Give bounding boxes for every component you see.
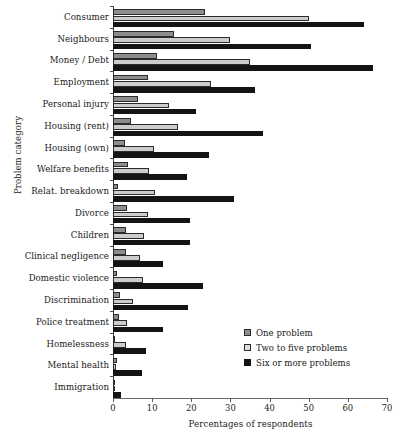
- y-axis-tick-label: Employment: [54, 77, 109, 87]
- y-axis-tick: [110, 137, 113, 138]
- y-axis-tick: [110, 28, 113, 29]
- bar: [113, 380, 115, 386]
- bar: [113, 152, 209, 158]
- bar: [113, 342, 126, 348]
- bar: [113, 196, 234, 202]
- bar: [113, 9, 205, 15]
- bar: [113, 59, 250, 65]
- bar: [113, 261, 163, 267]
- y-axis-tick-label: Consumer: [64, 12, 109, 22]
- y-axis-tick-label: Immigration: [54, 382, 109, 392]
- bar: [113, 140, 125, 146]
- y-axis-tick: [110, 333, 113, 334]
- bar: [113, 255, 140, 261]
- x-axis-tick-label: 0: [98, 403, 128, 413]
- bar: [113, 386, 115, 392]
- bar: [113, 283, 203, 289]
- y-axis-tick: [110, 246, 113, 247]
- y-axis-tick: [110, 93, 113, 94]
- bar: [113, 314, 119, 320]
- bar: [113, 190, 155, 196]
- bar: [113, 205, 127, 211]
- y-axis-tick-label: Mental health: [47, 360, 109, 370]
- bar: [113, 184, 118, 190]
- bar: [113, 118, 131, 124]
- y-axis-tick-label: Divorce: [75, 208, 109, 218]
- x-axis-tick-label: 70: [372, 403, 397, 413]
- x-axis-tick: [270, 398, 271, 402]
- bar: [113, 31, 174, 37]
- x-axis-tick-label: 60: [333, 403, 363, 413]
- y-axis-tick-label: Housing (rent): [44, 121, 109, 131]
- category-row: Children: [113, 224, 387, 246]
- y-axis-tick: [110, 71, 113, 72]
- y-axis-tick: [110, 180, 113, 181]
- category-row: Relat. breakdown: [113, 180, 387, 202]
- bar: [113, 358, 117, 364]
- x-axis-title: Percentages of respondents: [113, 419, 388, 429]
- category-row: Consumer: [113, 6, 387, 28]
- x-axis-tick-label: 20: [176, 403, 206, 413]
- x-axis-tick-label: 30: [215, 403, 245, 413]
- bar: [113, 22, 364, 28]
- bar: [113, 348, 146, 354]
- bar: [113, 327, 163, 333]
- x-axis-tick: [230, 398, 231, 402]
- legend-item: One problem: [244, 325, 350, 340]
- bar: [113, 233, 144, 239]
- bar: [113, 96, 138, 102]
- y-axis-tick: [110, 354, 113, 355]
- x-axis-tick-label: 10: [137, 403, 167, 413]
- legend-swatch-icon: [244, 359, 251, 366]
- y-axis-tick-label: Neighbours: [57, 34, 109, 44]
- bar: [113, 212, 148, 218]
- category-row: Housing (own): [113, 137, 387, 159]
- bar: [113, 37, 230, 43]
- y-axis-tick: [110, 376, 113, 377]
- bar: [113, 299, 133, 305]
- y-axis-tick-label: Domestic violence: [29, 273, 109, 283]
- bar: [113, 87, 255, 93]
- x-axis-line: [113, 398, 388, 399]
- bar: [113, 109, 196, 115]
- category-row: Clinical negligence: [113, 246, 387, 268]
- bar: [113, 81, 211, 87]
- bar: [113, 277, 143, 283]
- x-axis-tick: [387, 398, 388, 402]
- x-axis-tick: [152, 398, 153, 402]
- y-axis-tick-label: Welfare benefits: [37, 164, 109, 174]
- bar: [113, 162, 128, 168]
- category-row: Housing (rent): [113, 115, 387, 137]
- y-axis-tick-label: Relat. breakdown: [31, 186, 109, 196]
- y-axis-tick: [110, 311, 113, 312]
- legend-label: One problem: [256, 328, 313, 338]
- y-axis-tick-label: Police treatment: [36, 317, 109, 327]
- bar: [113, 370, 142, 376]
- legend-item: Six or more problems: [244, 355, 350, 370]
- bar: [113, 174, 187, 180]
- bar: [113, 16, 309, 22]
- legend-swatch-icon: [244, 344, 251, 351]
- y-axis-tick-label: Children: [71, 230, 109, 240]
- bar: [113, 271, 117, 277]
- bar: [113, 44, 311, 50]
- category-row: Discrimination: [113, 289, 387, 311]
- bar: [113, 124, 178, 130]
- bar: [113, 336, 115, 342]
- category-row: Money / Debt: [113, 50, 387, 72]
- bar: [113, 292, 120, 298]
- bar: [113, 168, 149, 174]
- bar: [113, 392, 121, 398]
- y-axis-title: Problem category: [13, 90, 23, 220]
- legend-label: Two to five problems: [256, 343, 347, 353]
- bar: [113, 146, 154, 152]
- bar: [113, 75, 148, 81]
- bar-chart: Problem category ConsumerNeighboursMoney…: [0, 0, 397, 443]
- x-axis-tick: [309, 398, 310, 402]
- y-axis-tick: [110, 6, 113, 7]
- x-axis-tick: [113, 398, 114, 402]
- category-row: Divorce: [113, 202, 387, 224]
- bar: [113, 131, 263, 137]
- category-row: Domestic violence: [113, 267, 387, 289]
- bar: [113, 305, 188, 311]
